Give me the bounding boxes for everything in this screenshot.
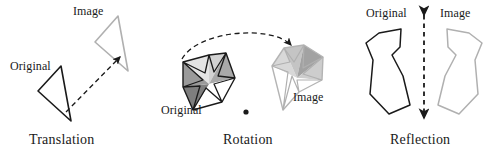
translation-original-label: Original: [10, 59, 51, 74]
reflection-panel-graphics: [366, 15, 482, 118]
reflection-image-label: Image: [440, 6, 470, 21]
reflection-original-label: Original: [366, 6, 407, 21]
translation-original-triangle: [38, 66, 71, 121]
translation-image-triangle: [95, 16, 128, 71]
rotation-original-star: [183, 53, 235, 110]
reflection-image-polygon: [438, 29, 482, 114]
rotation-original-label: Original: [161, 103, 202, 118]
rotation-arc-arrow: [182, 33, 291, 59]
rotation-image-label: Image: [293, 90, 323, 105]
translation-caption: Translation: [29, 132, 94, 148]
translation-image-label: Image: [73, 4, 103, 19]
rotation-caption: Rotation: [223, 132, 273, 148]
translation-panel-graphics: [38, 16, 128, 121]
transformations-figure: Original Image Translation Original Imag…: [0, 0, 496, 156]
reflection-caption: Reflection: [390, 132, 450, 148]
rotation-center-dot: [243, 109, 248, 114]
reflection-original-polygon: [366, 29, 410, 114]
translation-vector-arrow: [66, 57, 120, 112]
